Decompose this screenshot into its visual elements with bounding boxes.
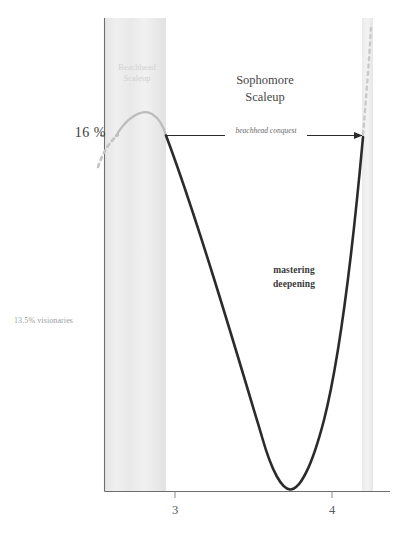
sophomore-scaleup-phase-label: Sophomore Scaleup <box>205 72 325 105</box>
beachhead-band <box>105 18 166 491</box>
beachhead-scaleup-phase-label: Beachhead Scaleup <box>108 62 166 85</box>
mastering-deepening-label: mastering deepening <box>246 264 342 292</box>
beachhead-conquest-arrow-label: beachhead conquest <box>225 127 307 136</box>
visionaries-annotation: 13.5% visionaries <box>14 316 73 325</box>
x-axis-tick-label-4: 4 <box>320 503 344 518</box>
scaleup-curve-figure: 16 % 13.5% visionaries Beachhead Scaleup… <box>0 0 398 534</box>
y-axis-value-label: 16 % <box>58 125 106 142</box>
x-axis-tick-label-3: 3 <box>163 503 187 518</box>
scaleup-valley-curve <box>166 136 363 490</box>
